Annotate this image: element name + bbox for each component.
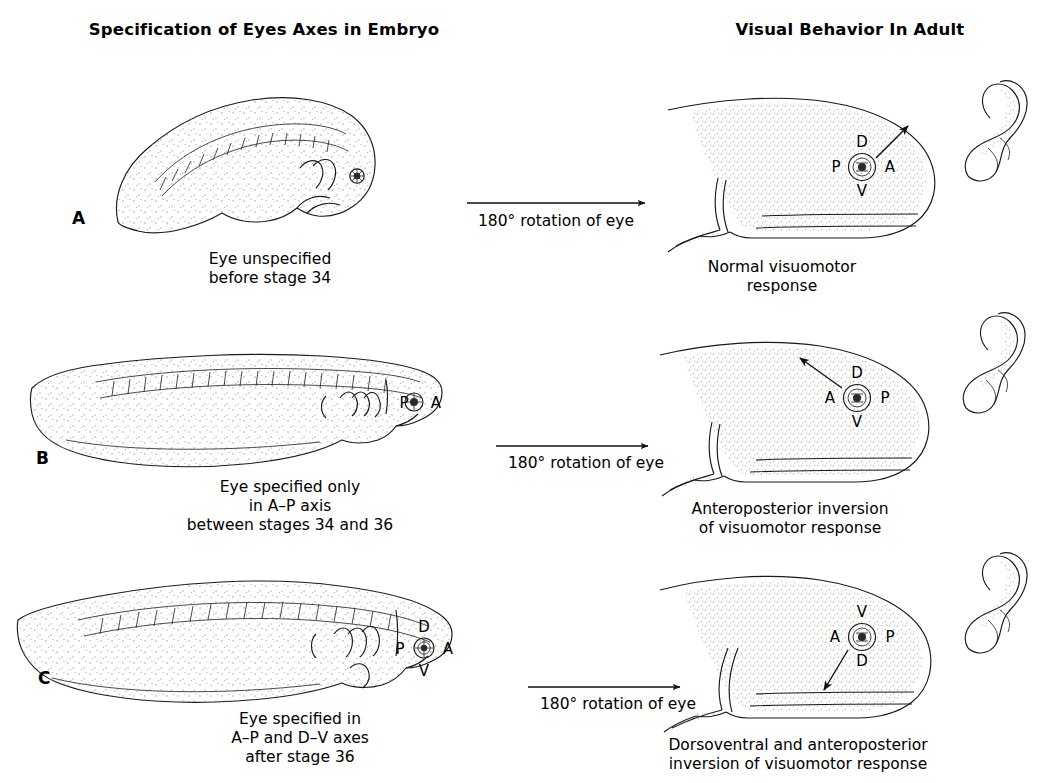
adult-c-axis-right: P <box>882 628 898 646</box>
panel-letter-a: A <box>72 208 85 228</box>
embryo-a-drawing <box>116 98 375 233</box>
embryo-caption-c: Eye specified in A–P and D–V axes after … <box>160 710 440 767</box>
panel-letter-c: C <box>38 668 50 688</box>
embryo-b-axis-left: P <box>396 394 412 412</box>
embryo-c-drawing <box>17 581 452 702</box>
adult-a-axis-left: P <box>828 158 844 176</box>
adult-b-axis-top: D <box>849 364 865 382</box>
rotation-label-a: 180° rotation of eye <box>456 212 656 230</box>
adult-caption-a: Normal visuomotor response <box>662 258 902 296</box>
adult-b-drawing <box>660 342 929 496</box>
embryo-b-drawing <box>31 354 443 466</box>
adult-c-axis-top: V <box>854 603 870 621</box>
adult-b-axis-bottom: V <box>849 413 865 431</box>
panel-letter-b: B <box>36 448 49 468</box>
prey-worm-a <box>965 81 1027 181</box>
adult-caption-c: Dorsoventral and anteroposterior inversi… <box>628 736 968 774</box>
embryo-caption-b: Eye specified only in A–P axis between s… <box>150 478 430 535</box>
embryo-c-axis-top: D <box>416 618 432 636</box>
embryo-c-axis-bottom: V <box>416 662 432 680</box>
column-title-left: Specification of Eyes Axes in Embryo <box>74 20 454 39</box>
adult-b-axis-right: P <box>877 389 893 407</box>
adult-a-axis-bottom: V <box>854 182 870 200</box>
prey-worm-c <box>965 553 1027 653</box>
adult-a-axis-top: D <box>854 133 870 151</box>
rotation-label-c: 180° rotation of eye <box>518 695 718 713</box>
adult-a-axis-right: A <box>882 158 898 176</box>
embryo-caption-a: Eye unspecified before stage 34 <box>150 250 390 288</box>
adult-c-axis-bottom: D <box>854 652 870 670</box>
embryo-c-axis-right: A <box>440 640 456 658</box>
column-title-right: Visual Behavior In Adult <box>700 20 1000 39</box>
prey-worm-b <box>963 313 1025 413</box>
adult-caption-b: Anteroposterior inversion of visuomotor … <box>650 500 930 538</box>
adult-c-axis-left: A <box>827 628 843 646</box>
embryo-c-axis-left: P <box>392 640 408 658</box>
embryo-b-axis-right: A <box>428 394 444 412</box>
rotation-label-b: 180° rotation of eye <box>486 454 686 472</box>
adult-b-axis-left: A <box>822 389 838 407</box>
figure-canvas: Specification of Eyes Axes in Embryo Vis… <box>0 0 1050 783</box>
